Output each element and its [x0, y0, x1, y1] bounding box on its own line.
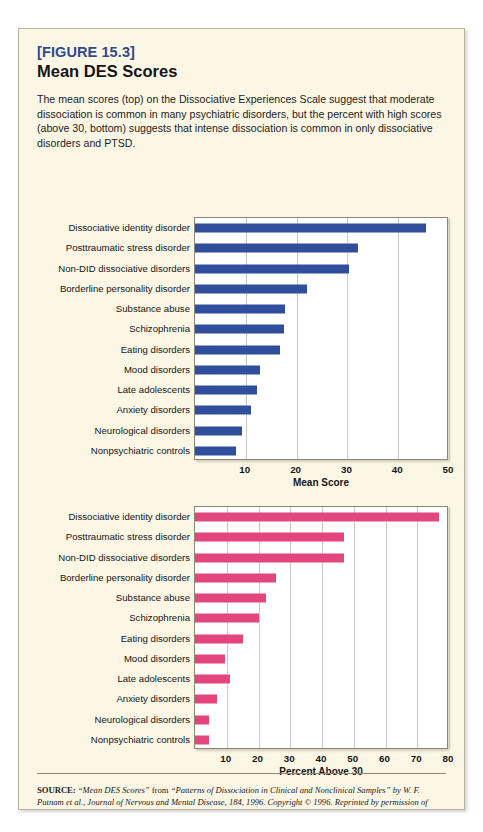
x-axis-tick-label: 80 [443, 753, 454, 764]
bar [195, 284, 307, 293]
plot-canvas [194, 506, 448, 749]
gridline [290, 507, 291, 748]
category-label: Dissociative identity disorder [68, 222, 190, 233]
category-label: Dissociative identity disorder [68, 511, 190, 522]
plot-canvas [194, 217, 448, 460]
gridline [398, 218, 399, 459]
gridline [449, 507, 450, 748]
plot-area-mean-des-scores: Dissociative identity disorderPosttrauma… [37, 217, 448, 460]
source-figure-title: “Mean DES Scores” [78, 785, 150, 795]
bar [195, 325, 284, 334]
x-axis-tick-label: 20 [290, 464, 301, 475]
x-axis-tick-label: 60 [379, 753, 390, 764]
bar [195, 695, 217, 704]
category-label: Nonpsychiatric controls [91, 444, 190, 455]
bar [195, 533, 344, 542]
bar [195, 513, 439, 522]
x-axis-tick-label: 70 [411, 753, 422, 764]
bar [195, 675, 230, 684]
bar [195, 715, 209, 724]
x-axis-tick-label: 20 [252, 753, 263, 764]
category-label: Borderline personality disorder [60, 282, 190, 293]
figure-caption: The mean scores (top) on the Dissociativ… [37, 92, 442, 150]
category-label: Schizophrenia [129, 612, 190, 623]
x-axis-tick-label: 10 [220, 753, 231, 764]
figure-title: Mean DES Scores [37, 61, 446, 82]
category-label: Mood disorders [124, 363, 190, 374]
bar [195, 406, 251, 415]
gridline [297, 218, 298, 459]
category-label: Mood disorders [124, 652, 190, 663]
plot-area-percent-above-30: Dissociative identity disorderPosttrauma… [37, 506, 448, 749]
bar [195, 735, 209, 744]
category-label: Neurological disorders [95, 713, 190, 724]
category-label: Non-DID dissociative disorders [58, 551, 190, 562]
chart-percent-above-30: Dissociative identity disorderPosttrauma… [37, 506, 448, 749]
x-axis-tick-label: 40 [316, 753, 327, 764]
bar [195, 446, 236, 455]
bar [195, 654, 225, 663]
bar [195, 345, 280, 354]
x-axis-tick-label: 30 [284, 753, 295, 764]
source-article-title: “Patterns of Dissociation in Clinical an… [171, 785, 391, 795]
source-citation: SOURCE: “Mean DES Scores” from “Patterns… [37, 785, 448, 810]
x-axis-title: Mean Score [194, 477, 448, 488]
category-label: Anxiety disorders [116, 693, 190, 704]
category-label: Anxiety disorders [116, 404, 190, 415]
x-axis-ticks: 1020304050607080 [194, 751, 448, 766]
gridline [246, 218, 247, 459]
figure-card: [FIGURE 15.3] Mean DES Scores The mean s… [18, 28, 465, 810]
x-axis-tick-label: 40 [392, 464, 403, 475]
gridline [322, 507, 323, 748]
gridline [386, 507, 387, 748]
gridline [347, 218, 348, 459]
category-label: Schizophrenia [129, 323, 190, 334]
x-axis-tick-label: 50 [443, 464, 454, 475]
category-label: Eating disorders [121, 343, 190, 354]
category-label: Substance abuse [116, 592, 190, 603]
category-label: Nonpsychiatric controls [91, 733, 190, 744]
gridline [259, 507, 260, 748]
bar [195, 365, 260, 374]
bar [195, 594, 266, 603]
gridline [354, 507, 355, 748]
category-label: Eating disorders [121, 632, 190, 643]
category-label: Neurological disorders [95, 424, 190, 435]
category-labels: Dissociative identity disorderPosttrauma… [37, 506, 194, 749]
x-axis-tick-label: 30 [341, 464, 352, 475]
bar [195, 386, 257, 395]
x-axis-ticks: 1020304050 [194, 462, 448, 477]
gridline [417, 507, 418, 748]
x-axis-tick-label: 10 [239, 464, 250, 475]
category-label: Posttraumatic stress disorder [66, 242, 190, 253]
category-label: Late adolescents [117, 673, 190, 684]
bar [195, 634, 243, 643]
bar [195, 264, 349, 273]
bar [195, 426, 242, 435]
chart-mean-des-scores: Dissociative identity disorderPosttrauma… [37, 217, 448, 460]
category-label: Posttraumatic stress disorder [66, 531, 190, 542]
category-label: Borderline personality disorder [60, 571, 190, 582]
source-divider [37, 773, 446, 774]
category-label: Non-DID dissociative disorders [58, 262, 190, 273]
x-axis-tick-label: 50 [347, 753, 358, 764]
category-label: Late adolescents [117, 384, 190, 395]
bar [195, 224, 426, 233]
category-label: Substance abuse [116, 303, 190, 314]
gridline [227, 507, 228, 748]
category-labels: Dissociative identity disorderPosttrauma… [37, 217, 194, 460]
x-axis-title: Percent Above 30 [194, 766, 448, 777]
figure-number-label: [FIGURE 15.3] [37, 43, 446, 61]
bar [195, 305, 285, 314]
source-label: SOURCE: [37, 785, 78, 795]
bar [195, 573, 276, 582]
gridline [449, 218, 450, 459]
bar [195, 244, 358, 253]
bar [195, 553, 344, 562]
bar [195, 614, 259, 623]
